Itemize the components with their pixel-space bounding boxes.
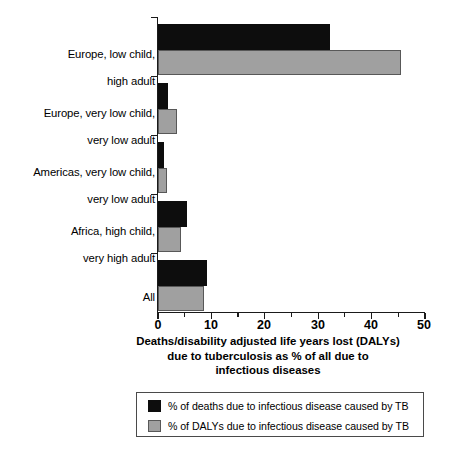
x-tick-label-0: 0 (138, 318, 178, 332)
category-label-line-1: Africa, high child, (71, 225, 155, 237)
x-tick-label-40: 40 (351, 318, 391, 332)
category-label-americas-very-low-child-very-low-adult: Americas, very low child, very low adult (5, 152, 155, 206)
legend-label-dalys: % of DALYs due to infectious disease cau… (168, 420, 409, 432)
x-tick-label-10: 10 (191, 318, 231, 332)
legend-label-deaths: % of deaths due to infectious disease ca… (168, 400, 409, 412)
category-label-europe-low-child-high-adult: Europe, low child, high adult (5, 34, 155, 88)
category-label-line-1: All (143, 291, 155, 303)
x-axis-title-line-1: Deaths/disability adjusted life years lo… (118, 334, 418, 349)
x-tick-label-30: 30 (298, 318, 338, 332)
black-square-swatch-icon (148, 400, 161, 412)
y-axis-tick (151, 17, 157, 18)
category-label-line-2: very low adult (87, 193, 155, 205)
bar-dalys-americas-very-low-child-very-low-adult (158, 168, 167, 193)
bar-dalys-all (158, 286, 204, 311)
x-axis-tick-minor (184, 313, 185, 317)
category-label-line-2: very low adult (87, 134, 155, 146)
category-label-africa-high-child-very-high-adult: Africa, high child, very high adult (5, 211, 155, 265)
bar-dalys-europe-very-low-child-very-low-adult (158, 109, 177, 134)
category-label-line-1: Americas, very low child, (33, 166, 155, 178)
x-axis-title-line-2: due to tuberculosis as % of all due to (118, 349, 418, 364)
category-label-line-2: high adult (107, 75, 155, 87)
chart-legend: % of deaths due to infectious disease ca… (136, 392, 424, 437)
x-tick-label-50: 50 (404, 318, 444, 332)
category-label-line-2: very high adult (83, 252, 155, 264)
bar-deaths-americas-very-low-child-very-low-adult (158, 142, 164, 168)
legend-entry-dalys: % of DALYs due to infectious disease cau… (148, 419, 409, 433)
bar-dalys-africa-high-child-very-high-adult (158, 227, 181, 252)
category-label-europe-very-low-child-very-low-adult: Europe, very low child, very low adult (5, 93, 155, 147)
bar-deaths-europe-low-child-high-adult (158, 24, 330, 50)
bar-deaths-europe-very-low-child-very-low-adult (158, 83, 168, 109)
bar-deaths-africa-high-child-very-high-adult (158, 201, 187, 227)
legend-entry-deaths: % of deaths due to infectious disease ca… (148, 399, 409, 413)
plot-area: 0 10 20 30 40 50 Europe, low child, high… (0, 0, 461, 330)
gray-square-swatch-icon (148, 420, 161, 432)
bar-dalys-europe-low-child-high-adult (158, 50, 401, 75)
x-axis-title: Deaths/disability adjusted life years lo… (118, 334, 418, 378)
category-label-line-1: Europe, low child, (68, 48, 155, 60)
bar-deaths-all (158, 260, 207, 286)
x-axis-tick-minor (291, 313, 292, 317)
x-tick-label-20: 20 (244, 318, 284, 332)
x-axis-tick-minor (237, 313, 238, 317)
x-axis-tick-minor (344, 313, 345, 317)
category-label-line-1: Europe, very low child, (44, 107, 155, 119)
x-axis-tick-minor (398, 313, 399, 317)
category-label-all: All (5, 277, 155, 304)
figure-container: 0 10 20 30 40 50 Europe, low child, high… (0, 0, 461, 468)
x-axis-title-line-3: infectious diseases (118, 363, 418, 378)
